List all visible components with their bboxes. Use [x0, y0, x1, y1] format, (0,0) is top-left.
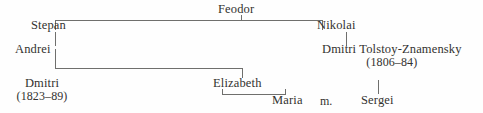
node-dmitri-label: Dmitri — [25, 76, 59, 90]
node-elizabeth-label: Elizabeth — [213, 76, 262, 90]
node-maria: Maria — [272, 94, 303, 107]
node-dmitri-dates: (1823–89) — [9, 90, 75, 103]
node-sergei-label: Sergei — [361, 93, 394, 107]
node-andrei-label: Andrei — [15, 42, 51, 56]
node-stepan-label: Stepan — [31, 18, 66, 32]
node-nikolai-label: Nikolai — [317, 18, 356, 32]
marriage-marker-label: m. — [320, 94, 332, 108]
connector-andrei-stem — [55, 49, 56, 68]
node-feodor: Feodor — [218, 3, 254, 16]
connector-sibling-bar-gen2 — [55, 20, 323, 21]
connector-sibling-bar-gen4 — [55, 68, 242, 69]
node-feodor-label: Feodor — [218, 2, 254, 16]
node-elizabeth: Elizabeth — [213, 77, 262, 90]
family-tree-diagram: Feodor Stepan Nikolai Andrei Dmitri Tols… — [0, 0, 483, 113]
node-dmitri-tolstoy-znamensky-dates: (1806–84) — [322, 56, 462, 69]
node-dmitri-tolstoy-znamensky: Dmitri Tolstoy-Znamensky (1806–84) — [322, 43, 462, 69]
node-andrei: Andrei — [15, 43, 51, 56]
node-stepan: Stepan — [31, 19, 66, 32]
node-dmitri-tolstoy-znamensky-label: Dmitri Tolstoy-Znamensky — [322, 42, 462, 56]
node-dmitri: Dmitri (1823–89) — [9, 77, 75, 103]
node-maria-label: Maria — [272, 93, 303, 107]
node-nikolai: Nikolai — [317, 19, 356, 32]
marriage-marker: m. — [320, 94, 332, 109]
connector-dmitri-tz-to-sergei — [378, 80, 379, 94]
node-sergei: Sergei — [361, 94, 394, 107]
connector-stepan-to-andrei — [55, 32, 56, 46]
